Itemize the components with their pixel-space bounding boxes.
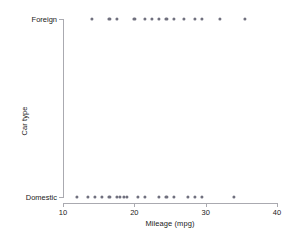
data-point: [172, 17, 175, 20]
data-point: [133, 17, 136, 20]
data-point: [218, 17, 221, 20]
data-point: [90, 17, 93, 20]
data-point: [201, 195, 204, 198]
data-point: [108, 195, 111, 198]
data-point: [143, 195, 146, 198]
data-point: [193, 195, 196, 198]
data-point: [193, 17, 196, 20]
data-point: [143, 17, 146, 20]
data-point: [165, 17, 168, 20]
data-point: [115, 17, 118, 20]
data-point: [243, 17, 246, 20]
y-tick-label: Foreign: [32, 15, 57, 24]
y-tick-mark: [59, 197, 63, 198]
data-point: [186, 195, 189, 198]
data-point: [158, 17, 161, 20]
y-tick-label: Domestic: [26, 193, 57, 202]
y-axis-title: Car type: [16, 0, 32, 242]
data-point: [151, 17, 154, 20]
x-tick-mark: [63, 203, 64, 207]
data-point: [101, 195, 104, 198]
x-tick-label: 40: [273, 208, 281, 217]
data-point: [183, 17, 186, 20]
data-point: [233, 195, 236, 198]
data-point: [158, 195, 161, 198]
data-point: [136, 195, 139, 198]
y-tick-mark: [59, 19, 63, 20]
data-point: [165, 195, 168, 198]
data-point: [86, 195, 89, 198]
x-tick-label: 10: [59, 208, 67, 217]
x-tick-label: 20: [130, 208, 138, 217]
x-axis-line: [63, 203, 278, 204]
data-point: [126, 195, 129, 198]
data-point: [76, 195, 79, 198]
x-tick-mark: [277, 203, 278, 207]
scatter-plot-figure: Car type 10203040 ForeignDomestic Mileag…: [0, 0, 303, 242]
x-tick-label: 30: [201, 208, 209, 217]
data-point: [201, 17, 204, 20]
y-axis-line: [63, 19, 64, 198]
data-point: [172, 195, 175, 198]
data-point: [94, 195, 97, 198]
y-axis-title-label: Car type: [20, 106, 29, 135]
data-point: [108, 17, 111, 20]
x-tick-mark: [206, 203, 207, 207]
x-axis-title: Mileage (mpg): [63, 219, 277, 228]
x-tick-mark: [134, 203, 135, 207]
